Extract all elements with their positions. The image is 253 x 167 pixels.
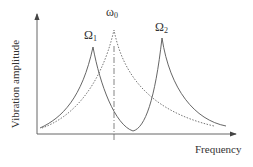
- peak-label-omega0: ω0: [106, 5, 118, 20]
- peak-label-omega1: Ω1: [84, 28, 97, 43]
- solid-coupled-curve: [40, 38, 226, 131]
- dotted-resonance-curve: [42, 30, 214, 128]
- peak-label-omega2: Ω2: [155, 20, 168, 35]
- y-axis-label: Vibration amplitude: [9, 29, 21, 139]
- frequency-response-diagram: Vibration amplitude Frequency Ω1 ω0 Ω2: [0, 0, 253, 167]
- x-axis-label: Frequency: [195, 143, 241, 155]
- plot-canvas: [0, 0, 253, 167]
